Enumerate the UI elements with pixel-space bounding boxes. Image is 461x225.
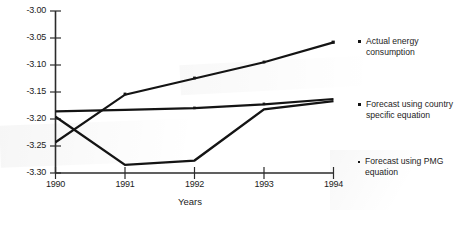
dot-marker-icon	[358, 161, 360, 163]
legend-item-pmg-forecast: Forecast using PMG equation	[358, 156, 453, 177]
x-tick-label: 1994	[314, 179, 354, 189]
y-tick-label: -3.20	[12, 113, 46, 123]
legend-label: Actual energy consumption	[366, 36, 454, 57]
legend-label: Forecast using country specific equation	[366, 99, 454, 120]
y-tick-label: -3.25	[12, 140, 46, 150]
x-axis-title: Years	[145, 196, 235, 207]
y-tick-label: -3.05	[12, 32, 46, 42]
y-tick-label: -3.15	[12, 86, 46, 96]
y-tick-label: -3.30	[12, 167, 46, 177]
x-tick-label: 1991	[105, 179, 145, 189]
x-tick-label: 1992	[175, 179, 215, 189]
triangle-marker-icon	[358, 40, 361, 43]
chart-figure: -3.00 -3.05 -3.10 -3.15 -3.20 -3.25 -3.3…	[0, 0, 461, 225]
square-marker-icon	[358, 103, 361, 106]
legend-item-actual-consumption: Actual energy consumption	[358, 36, 454, 57]
series-line-actual-consumption	[56, 42, 334, 142]
y-tick-label: -3.10	[12, 59, 46, 69]
x-tick-label: 1993	[244, 179, 284, 189]
y-tick-label: -3.00	[12, 5, 46, 15]
legend-label: Forecast using PMG equation	[365, 156, 453, 177]
legend-item-country-specific-forecast: Forecast using country specific equation	[358, 99, 454, 120]
x-tick-label: 1990	[36, 179, 76, 189]
